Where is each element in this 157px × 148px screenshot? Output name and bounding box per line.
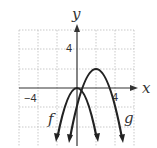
tick-y-4: 4 — [66, 42, 72, 54]
label-g: g — [124, 109, 134, 127]
tick-x-neg4: −4 — [24, 92, 37, 104]
arrow-f-right-icon — [94, 133, 100, 142]
arrow-g-left-icon — [67, 134, 73, 143]
arrow-f-left-icon — [54, 133, 60, 142]
y-axis-arrow-icon — [74, 24, 80, 32]
x-axis-label: x — [142, 79, 151, 97]
label-f: f — [47, 110, 56, 128]
y-axis-label: y — [71, 5, 81, 23]
arrow-g-right-icon — [119, 134, 125, 143]
chart: x y −4 4 4 f g — [0, 0, 157, 148]
